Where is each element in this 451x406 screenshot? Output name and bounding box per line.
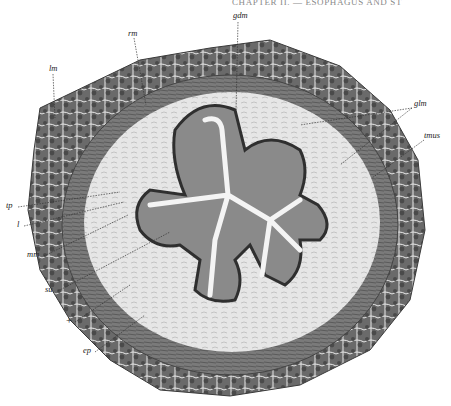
label-plus: +: [66, 314, 72, 326]
label-lm: lm: [49, 63, 58, 73]
label-su: su: [45, 284, 53, 294]
label-glm: glm: [414, 98, 427, 108]
label-rm: rm: [128, 28, 137, 38]
label-tmus: tmus: [424, 130, 440, 140]
label-ep: ep: [83, 345, 91, 355]
label-l: l: [17, 219, 19, 229]
label-gdm: gdm: [233, 10, 248, 20]
esophagus-section-figure: [0, 0, 451, 406]
label-mm: mm: [27, 249, 39, 259]
label-tp: tp: [6, 200, 13, 210]
